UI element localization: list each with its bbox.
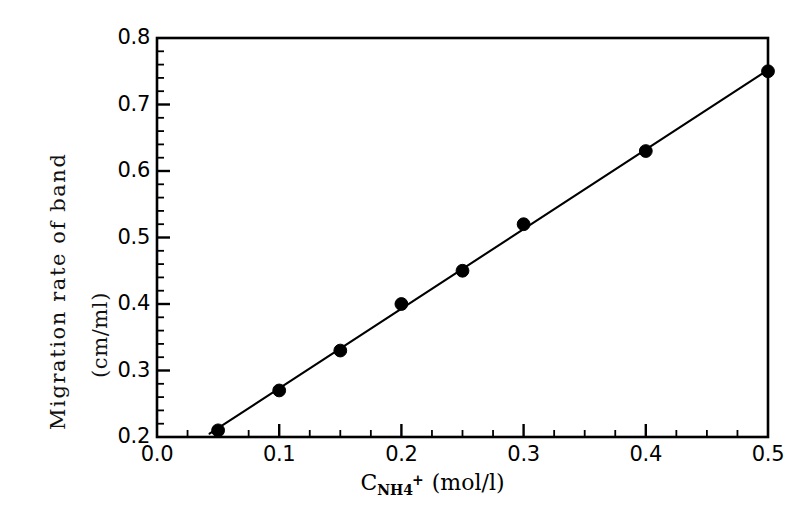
data-point — [395, 298, 408, 311]
data-point — [517, 218, 530, 231]
x-tick-label: 0.5 — [752, 444, 785, 465]
x-tick-label: 0.0 — [141, 444, 174, 465]
data-point — [639, 145, 652, 158]
y-tick-label: 0.3 — [94, 360, 150, 381]
axis-ticks — [157, 51, 737, 437]
x-tick-label: 0.3 — [507, 444, 540, 465]
x-axis-superscript: + — [412, 472, 424, 488]
x-tick-label: 0.4 — [630, 444, 663, 465]
data-point — [273, 384, 286, 397]
data-point — [334, 344, 347, 357]
data-point — [212, 424, 225, 437]
x-axis-unit: (mol/l) — [432, 470, 505, 495]
data-point — [762, 65, 775, 78]
plot-frame — [157, 38, 768, 437]
figure-container: Migration rate of band (cm/ml) 0.20.30.4… — [0, 0, 805, 524]
x-axis-title: CNH4+(mol/l) — [0, 470, 805, 498]
y-tick-label: 0.4 — [94, 293, 150, 314]
y-axis-title-line1: Migration rate of band — [46, 152, 70, 430]
x-tick-label: 0.1 — [263, 444, 296, 465]
y-tick-label: 0.8 — [94, 27, 150, 48]
x-axis-symbol: C — [360, 470, 377, 495]
data-series — [210, 65, 775, 437]
y-tick-label: 0.7 — [94, 94, 150, 115]
x-axis-subscript: NH4 — [377, 482, 413, 498]
y-tick-label: 0.6 — [94, 160, 150, 181]
x-tick-label: 0.2 — [385, 444, 418, 465]
data-point — [456, 264, 469, 277]
y-tick-label: 0.5 — [94, 227, 150, 248]
